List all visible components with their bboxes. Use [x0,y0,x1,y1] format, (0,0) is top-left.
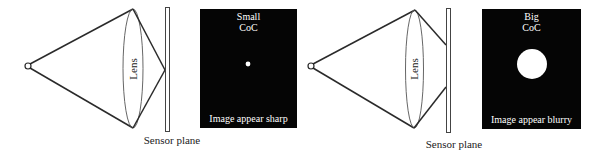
coc-title-line1: Small [237,11,261,22]
big-coc-disc-icon [517,49,547,79]
lens-label: Lens [408,58,420,79]
sensor-plane-shape [166,8,170,132]
ray-lower-incident [313,68,414,128]
coc-title-line2: CoC [522,22,541,33]
ray-upper-incident [30,9,133,64]
sensor-plane-label: Sensor plane [144,134,201,146]
ray-lower-refracted [414,87,446,128]
ray-upper-refracted [415,10,446,45]
small-coc-panel: Small CoC Image appear sharp [200,9,297,128]
coc-title-line2: CoC [239,22,258,33]
coc-title-line1: Big [524,11,538,22]
result-caption: Image appear blurry [491,114,572,125]
out-of-focus-optics: Lens Sensor plane [308,9,482,151]
in-focus-optics: Lens Sensor plane [25,8,200,147]
ray-lower-incident [30,68,133,128]
ray-upper-incident [313,10,415,64]
sensor-plane-shape [447,9,451,133]
sensor-plane-label: Sensor plane [426,138,483,150]
small-coc-dot-icon [246,62,251,67]
big-coc-panel: Big CoC Image appear blurry [482,9,581,129]
result-caption: Image appear sharp [209,113,287,124]
lens-label: Lens [127,58,139,79]
coc-diagram: Lens Sensor plane Small CoC Image appear… [0,0,603,154]
